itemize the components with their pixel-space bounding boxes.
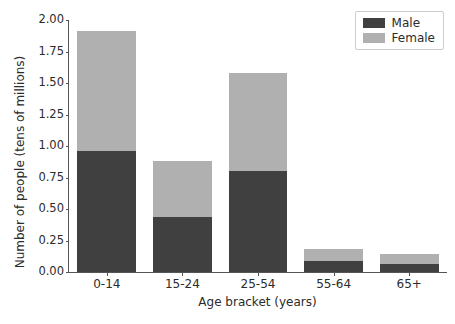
y-tick-label: 0.50 bbox=[38, 203, 64, 215]
legend-item: Male bbox=[363, 17, 435, 29]
chart-figure: 0.000.250.500.751.001.251.501.752.000-14… bbox=[0, 0, 455, 324]
y-tick-mark bbox=[66, 20, 70, 21]
y-tick-mark bbox=[66, 83, 70, 84]
bar-group bbox=[153, 20, 212, 272]
bar-group bbox=[229, 20, 288, 272]
x-tick-label: 15-24 bbox=[165, 278, 200, 290]
legend-label: Female bbox=[392, 32, 435, 44]
y-axis-label: Number of people (tens of millions) bbox=[14, 0, 28, 324]
chart-legend: MaleFemale bbox=[355, 11, 444, 50]
bar-segment-female bbox=[77, 31, 136, 151]
plot-area: 0.000.250.500.751.001.251.501.752.000-14… bbox=[68, 20, 447, 273]
x-tick-mark bbox=[258, 272, 259, 276]
bar-group bbox=[304, 20, 363, 272]
x-axis-label: Age bracket (years) bbox=[68, 296, 447, 308]
y-tick-mark bbox=[66, 178, 70, 179]
y-tick-mark bbox=[66, 146, 70, 147]
y-tick-label: 0.00 bbox=[38, 266, 64, 278]
bar-segment-female bbox=[229, 73, 288, 171]
y-tick-label: 0.25 bbox=[38, 235, 64, 247]
x-tick-mark bbox=[409, 272, 410, 276]
x-tick-mark bbox=[107, 272, 108, 276]
bar-segment-male bbox=[77, 151, 136, 272]
x-tick-label: 55-64 bbox=[316, 278, 351, 290]
legend-swatch-icon bbox=[363, 33, 385, 43]
y-tick-mark bbox=[66, 272, 70, 273]
x-tick-label: 0-14 bbox=[93, 278, 120, 290]
y-tick-label: 1.25 bbox=[38, 109, 64, 121]
bar-segment-male bbox=[304, 261, 363, 272]
y-tick-mark bbox=[66, 241, 70, 242]
legend-item: Female bbox=[363, 32, 435, 44]
bar-segment-male bbox=[380, 264, 439, 272]
y-tick-label: 1.50 bbox=[38, 77, 64, 89]
x-tick-mark bbox=[182, 272, 183, 276]
y-tick-mark bbox=[66, 115, 70, 116]
y-tick-label: 2.00 bbox=[38, 14, 64, 26]
y-tick-label: 1.75 bbox=[38, 46, 64, 58]
y-tick-label: 0.75 bbox=[38, 172, 64, 184]
y-tick-label: 1.00 bbox=[38, 140, 64, 152]
bar-segment-female bbox=[304, 249, 363, 260]
legend-label: Male bbox=[392, 17, 420, 29]
x-tick-label: 25-54 bbox=[241, 278, 276, 290]
y-tick-mark bbox=[66, 209, 70, 210]
x-tick-label: 65+ bbox=[397, 278, 422, 290]
bar-segment-female bbox=[380, 254, 439, 264]
legend-swatch-icon bbox=[363, 18, 385, 28]
bar-segment-male bbox=[153, 217, 212, 272]
x-tick-mark bbox=[334, 272, 335, 276]
bar-segment-male bbox=[229, 171, 288, 272]
bar-segment-female bbox=[153, 161, 212, 216]
bar-group bbox=[380, 20, 439, 272]
bar-group bbox=[77, 20, 136, 272]
y-tick-mark bbox=[66, 52, 70, 53]
